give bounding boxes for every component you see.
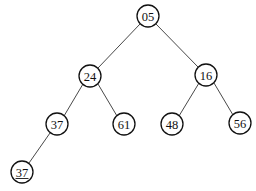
node-48: 48	[161, 113, 183, 135]
binary-tree-diagram: 05 24 16 37 61 48 56 37	[0, 0, 256, 191]
node-label: 61	[118, 118, 131, 132]
node-61: 61	[113, 113, 135, 135]
node-label: 16	[200, 69, 213, 83]
edges	[29, 24, 233, 163]
edge-05-24	[98, 24, 140, 68]
node-label: 05	[142, 10, 155, 24]
edge-16-48	[179, 83, 199, 116]
node-56: 56	[229, 112, 251, 134]
node-24: 24	[79, 65, 101, 87]
node-37-underlined: 37	[11, 161, 33, 183]
node-label: 56	[234, 117, 247, 131]
edge-05-16	[156, 24, 198, 67]
node-label: 48	[166, 118, 179, 132]
node-label: 37	[51, 118, 64, 132]
edge-24-37	[64, 84, 83, 116]
node-05: 05	[137, 5, 159, 27]
edge-37-37	[29, 133, 50, 163]
node-37: 37	[46, 113, 68, 135]
node-16: 16	[195, 64, 217, 86]
node-label: 37	[16, 166, 29, 180]
edge-16-56	[214, 83, 233, 115]
node-label: 24	[84, 70, 97, 84]
edge-24-61	[98, 84, 117, 116]
